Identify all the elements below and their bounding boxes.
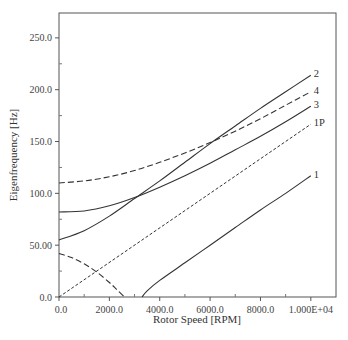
curve-2: [59, 75, 311, 240]
x-tick-label: 1.000E+04: [289, 304, 333, 315]
curve-label-4: 4: [314, 85, 320, 96]
x-tick-label: 0.0: [55, 304, 68, 315]
curve-label-1: 1: [314, 169, 319, 180]
x-tick-label: 2000.0: [96, 304, 124, 315]
curve-labels: 2431P1: [314, 68, 325, 180]
curve-4: [59, 92, 311, 183]
curve-label-2: 2: [314, 68, 319, 79]
y-tick-label: 250.0: [30, 32, 53, 43]
y-tick-label: 200.0: [30, 84, 53, 95]
y-tick-label: 0.0: [40, 292, 53, 303]
plot-curves: [59, 75, 311, 297]
y-axis-title: Eigenfrequency [Hz]: [7, 109, 19, 202]
x-tick-label: 8000.0: [247, 304, 275, 315]
curve-label-3: 3: [314, 99, 319, 110]
y-tick-label: 50.00: [30, 240, 53, 251]
y-tick-label: 150.0: [30, 136, 53, 147]
x-axis-title: Rotor Speed [RPM]: [153, 313, 241, 325]
curve-1P: [59, 124, 311, 297]
y-tick-label: 100.0: [30, 188, 53, 199]
curve-3: [59, 106, 311, 212]
eigenfrequency-chart: 0.050.00100.0150.0200.0250.00.02000.0400…: [0, 0, 348, 340]
curve-label-1P: 1P: [314, 117, 325, 128]
curve-1: [142, 176, 311, 297]
